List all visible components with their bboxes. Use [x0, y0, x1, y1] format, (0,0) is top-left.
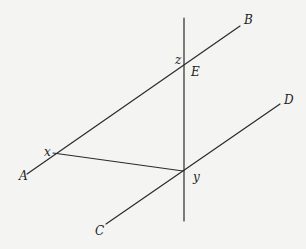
geometry-diagram: B z E D x A y C — [0, 0, 306, 249]
label-z: z — [174, 53, 182, 67]
label-c: C — [95, 224, 104, 238]
label-d: D — [283, 93, 294, 107]
line-ab — [27, 26, 240, 174]
label-x: x — [44, 145, 51, 159]
label-y: y — [192, 170, 200, 184]
segment-xy — [53, 153, 183, 171]
label-b: B — [243, 13, 253, 27]
label-e: E — [190, 65, 200, 79]
label-a: A — [18, 169, 28, 183]
